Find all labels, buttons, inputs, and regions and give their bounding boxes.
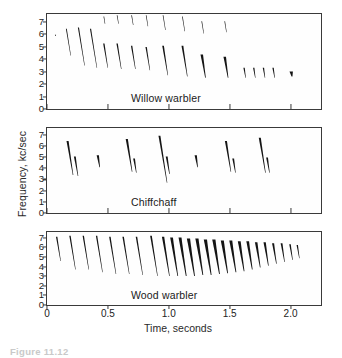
- x-tick-mark-1.0: [168, 104, 169, 109]
- figure-number-caption: Figure 11.12: [10, 346, 69, 357]
- panel-willow-warbler: Willow warbler 01234567: [46, 13, 322, 110]
- note-stroke: [97, 155, 100, 167]
- note-stroke: [289, 72, 292, 77]
- note-stroke: [56, 237, 61, 261]
- note-stroke: [145, 47, 150, 70]
- note-stroke: [182, 16, 185, 31]
- note-stroke: [131, 15, 133, 25]
- note-stroke: [90, 29, 97, 68]
- note-stroke: [232, 159, 235, 173]
- species-label-wood-warbler: Wood warbler: [131, 289, 197, 301]
- x-tick-mark-0: [46, 104, 47, 109]
- y-tick-mark-7: [43, 134, 47, 135]
- note-stroke: [243, 68, 245, 78]
- y-tick-mark-4: [43, 266, 47, 267]
- note-stroke: [162, 237, 170, 276]
- y-tick-mark-3: [43, 71, 47, 72]
- x-tick-label-1.5: 1.5: [223, 309, 237, 319]
- x-tick-label-1.0: 1.0: [162, 309, 176, 319]
- note-stroke: [266, 158, 270, 173]
- note-stroke: [297, 245, 300, 258]
- note-stroke: [223, 57, 228, 78]
- note-stroke: [103, 16, 105, 23]
- x-tick-label-0.5: 0.5: [101, 309, 115, 319]
- note-stroke: [55, 35, 56, 36]
- x-tick-label-2.0: 2.0: [284, 309, 298, 319]
- note-stroke: [253, 68, 255, 78]
- note-stroke: [166, 156, 170, 173]
- x-tick-mark-2.0: [290, 208, 291, 213]
- note-stroke: [131, 46, 136, 69]
- spectrogram-trace-chiffchaff: [47, 128, 321, 213]
- y-axis-title: Frequency, kc/sec: [16, 126, 28, 222]
- y-tick-mark-7: [43, 237, 47, 238]
- x-tick-mark-0.5: [107, 208, 108, 213]
- x-tick-mark-1.5: [229, 104, 230, 109]
- panel-chiffchaff: Chiffchaff 01234567: [46, 127, 322, 214]
- note-stroke: [187, 239, 195, 276]
- note-stroke: [179, 238, 187, 276]
- note-stroke: [238, 241, 245, 271]
- note-stroke: [204, 239, 212, 275]
- y-tick-mark-4: [43, 58, 47, 59]
- y-tick-mark-3: [43, 276, 47, 277]
- note-stroke: [281, 243, 285, 262]
- note-stroke: [109, 237, 116, 274]
- y-tick-mark-4: [43, 168, 47, 169]
- y-tick-mark-6: [43, 247, 47, 248]
- note-stroke: [116, 43, 121, 69]
- note-stroke: [122, 237, 129, 274]
- note-stroke: [229, 240, 236, 272]
- note-stroke: [272, 243, 277, 264]
- y-tick-mark-5: [43, 157, 47, 158]
- y-tick-mark-2: [43, 285, 47, 286]
- note-stroke: [133, 159, 136, 173]
- note-stroke: [66, 29, 71, 56]
- note-stroke: [259, 138, 266, 173]
- y-tick-mark-2: [43, 190, 47, 191]
- note-stroke: [74, 156, 78, 176]
- x-tick-mark-0.5: [107, 104, 108, 109]
- note-stroke: [158, 136, 167, 183]
- note-stroke: [246, 241, 252, 269]
- note-stroke: [289, 244, 293, 260]
- note-stroke: [263, 68, 266, 78]
- y-tick-mark-3: [43, 179, 47, 180]
- panel-wood-warbler: Wood warbler 0123456700.51.01.52.0: [46, 231, 322, 306]
- x-tick-label-0: 0: [44, 309, 50, 319]
- note-stroke: [201, 21, 204, 33]
- note-stroke: [263, 242, 268, 265]
- note-stroke: [195, 155, 198, 167]
- note-stroke: [225, 141, 231, 172]
- y-tick-mark-6: [43, 145, 47, 146]
- note-stroke: [255, 242, 261, 267]
- note-stroke: [224, 21, 226, 32]
- y-tick-mark-5: [43, 46, 47, 47]
- x-tick-mark-2.0: [290, 104, 291, 109]
- note-stroke: [78, 27, 85, 65]
- y-tick-mark-1: [43, 201, 47, 202]
- note-stroke: [67, 141, 74, 175]
- y-tick-mark-7: [43, 21, 47, 22]
- note-stroke: [162, 46, 168, 75]
- spectrogram-figure: Frequency, kc/sec Willow warbler 0123456…: [0, 0, 342, 358]
- note-stroke: [136, 237, 143, 275]
- note-stroke: [200, 54, 205, 77]
- note-stroke: [212, 239, 220, 274]
- y-tick-mark-6: [43, 33, 47, 34]
- species-label-willow-warbler: Willow warbler: [131, 92, 201, 104]
- note-stroke: [96, 236, 103, 272]
- note-stroke: [146, 15, 148, 26]
- note-stroke: [126, 139, 133, 172]
- x-axis-title-text: Time, seconds: [130, 322, 212, 334]
- x-tick-mark-0: [46, 208, 47, 213]
- note-stroke: [163, 15, 166, 30]
- note-stroke: [150, 236, 158, 276]
- note-stroke: [221, 240, 228, 273]
- species-label-chiffchaff: Chiffchaff: [131, 196, 176, 208]
- note-stroke: [83, 236, 89, 270]
- note-stroke: [181, 46, 187, 77]
- x-tick-mark-1.0: [168, 208, 169, 213]
- y-tick-mark-1: [43, 295, 47, 296]
- note-stroke: [69, 236, 75, 270]
